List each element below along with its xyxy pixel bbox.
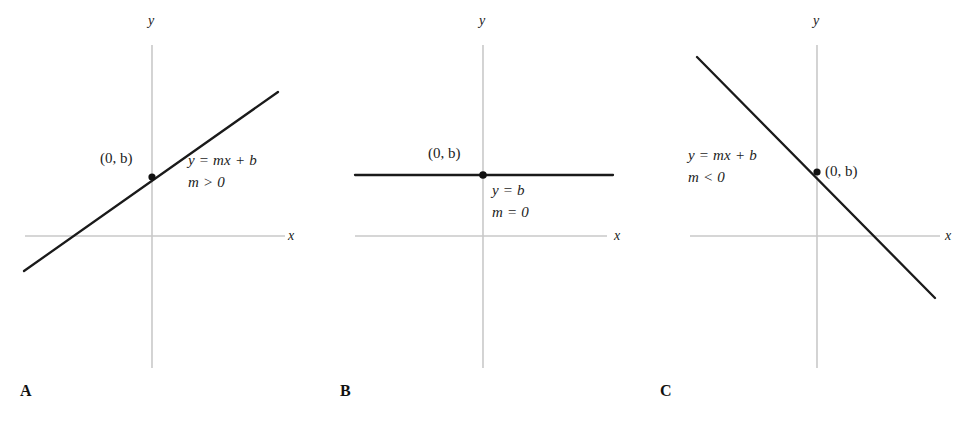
panel-letter-a: A [20, 382, 32, 400]
y-axis-label-b: y [479, 13, 485, 29]
y-axis-label-a: y [148, 13, 154, 29]
equation-block-c: y = mx + b m < 0 [688, 145, 757, 189]
equation-label-c: y = mx + b [688, 145, 757, 167]
slope-condition-label-a: m > 0 [188, 172, 257, 194]
panel-a: y x (0, b) y = mx + b m > 0 A [0, 0, 320, 428]
panel-b: y x (0, b) y = b m = 0 B [320, 0, 640, 428]
panel-c: y x (0, b) y = mx + b m < 0 C [640, 0, 969, 428]
x-axis-label-a: x [288, 228, 294, 244]
panel-b-graph [320, 0, 640, 428]
figure-slope-intercept-forms: y x (0, b) y = mx + b m > 0 A y x (0, b)… [0, 0, 969, 428]
y-intercept-point-b [479, 171, 487, 179]
panel-a-graph [0, 0, 320, 428]
slope-condition-label-b: m = 0 [492, 202, 529, 224]
equation-label-a: y = mx + b [188, 150, 257, 172]
equation-block-b: y = b m = 0 [492, 180, 529, 224]
y-intercept-label-c: (0, b) [825, 163, 858, 180]
panel-letter-c: C [660, 382, 672, 400]
equation-block-a: y = mx + b m > 0 [188, 150, 257, 194]
equation-label-b: y = b [492, 180, 529, 202]
y-intercept-label-a: (0, b) [100, 150, 133, 167]
y-intercept-point-a [148, 173, 155, 180]
x-axis-label-c: x [945, 228, 951, 244]
y-axis-label-c: y [813, 13, 819, 29]
y-intercept-label-b: (0, b) [428, 145, 461, 162]
y-intercept-point-c [813, 168, 820, 175]
x-axis-label-b: x [614, 228, 620, 244]
slope-condition-label-c: m < 0 [688, 167, 757, 189]
panel-c-graph [640, 0, 969, 428]
panel-letter-b: B [340, 382, 351, 400]
